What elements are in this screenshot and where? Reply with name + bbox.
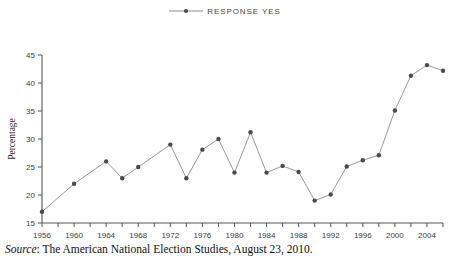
data-point-marker (120, 176, 124, 180)
source-text: The American National Election Studies, … (40, 243, 313, 255)
data-point-marker (409, 74, 413, 78)
data-point-marker (377, 153, 381, 157)
y-tick-label: 45 (26, 51, 35, 60)
data-point-marker (104, 159, 108, 163)
x-axis-tick-labels: 1956196019641968197219761980198419881992… (33, 231, 436, 239)
x-tick-label: 1968 (129, 231, 147, 239)
data-point-marker (232, 170, 236, 174)
data-point-marker (312, 198, 316, 202)
data-point-marker (40, 210, 44, 214)
y-axis-tick-labels: 15202530354045 (26, 51, 35, 228)
data-point-marker (200, 147, 204, 151)
data-point-marker (393, 108, 397, 112)
x-axis-ticks (42, 223, 443, 227)
figure-container: RESPONSE YES 15202530354045 195619601964… (0, 0, 450, 270)
y-tick-label: 25 (26, 163, 35, 172)
x-tick-label: 1984 (258, 231, 276, 239)
data-point-marker (345, 164, 349, 168)
x-tick-label: 1996 (354, 231, 372, 239)
legend-entry-response-yes: RESPONSE YES (169, 6, 280, 16)
x-tick-label: 1988 (290, 231, 308, 239)
x-tick-label: 1964 (97, 231, 115, 239)
data-point-marker (361, 158, 365, 162)
x-tick-label: 1960 (65, 231, 83, 239)
y-tick-label: 30 (26, 135, 35, 144)
x-tick-label: 1992 (322, 231, 340, 239)
data-point-marker (296, 170, 300, 174)
y-tick-label: 40 (26, 79, 35, 88)
data-point-marker (216, 137, 220, 141)
y-axis-ticks (38, 55, 42, 223)
data-point-marker (184, 176, 188, 180)
data-point-marker (72, 182, 76, 186)
x-tick-label: 1976 (194, 231, 212, 239)
x-tick-label: 1980 (226, 231, 244, 239)
data-point-marker (441, 68, 445, 72)
x-tick-label: 1956 (33, 231, 51, 239)
data-point-marker (136, 165, 140, 169)
data-point-marker (168, 142, 172, 146)
y-tick-label: 35 (26, 107, 35, 116)
line-with-dot-marker-icon (169, 6, 203, 16)
data-point-marker (280, 164, 284, 168)
y-tick-label: 20 (26, 191, 35, 200)
x-tick-label: 2004 (418, 231, 436, 239)
data-point-marker (248, 130, 252, 134)
y-axis-title: Percentage (7, 118, 17, 160)
source-caption: Source: The American National Election S… (5, 243, 445, 255)
data-point-marker (264, 170, 268, 174)
legend-label-response-yes: RESPONSE YES (207, 7, 280, 16)
axis-group (42, 55, 443, 223)
chart-legend: RESPONSE YES (0, 6, 450, 16)
data-point-marker (425, 63, 429, 67)
y-tick-label: 15 (26, 219, 35, 228)
data-point-marker (329, 192, 333, 196)
series-line-response-yes (42, 65, 443, 212)
x-tick-label: 1972 (161, 231, 179, 239)
line-chart-plot: 15202530354045 1956196019641968197219761… (0, 24, 450, 239)
source-label: Source (5, 243, 37, 255)
x-tick-label: 2000 (386, 231, 404, 239)
